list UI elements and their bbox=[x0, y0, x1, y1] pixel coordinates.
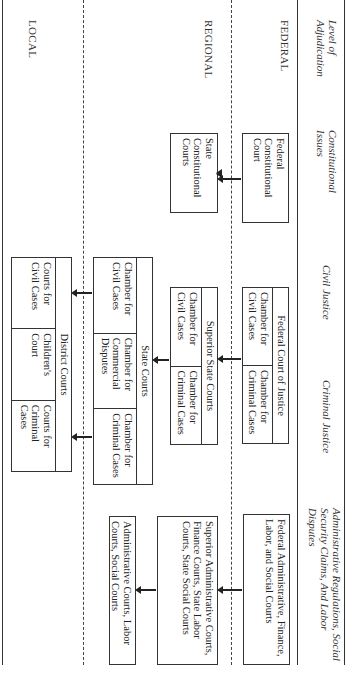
arrow-district-criminal-to-state bbox=[73, 436, 92, 438]
level-local: LOCAL bbox=[27, 20, 39, 58]
sc-civil-chamber: Chamber for Civil Cases bbox=[94, 258, 136, 334]
federal-constitutional-court: Federal Constitutional Court bbox=[242, 133, 289, 223]
dc-criminal-courts: Courts for Criminal Cases bbox=[12, 401, 55, 471]
header-criminal: Criminal Justice bbox=[321, 380, 333, 470]
dc-civil-courts: Courts for Civil Cases bbox=[12, 258, 55, 329]
header-civil: Civil Justice bbox=[321, 265, 333, 345]
sc-criminal-chamber: Chamber for Criminal Cases bbox=[94, 409, 136, 484]
federal-court-of-justice-title: Federal Court of Justice bbox=[272, 288, 288, 443]
regional-local-divider bbox=[83, 0, 84, 665]
arrow-state-courts-to-superior bbox=[154, 359, 169, 361]
header-separator bbox=[297, 0, 298, 665]
fcj-civil-chamber: Chamber for Civil Cases bbox=[243, 288, 272, 366]
header-level: Level of Adjudication bbox=[315, 20, 339, 90]
header-administrative: Administrative Regulations, Social Secur… bbox=[307, 508, 343, 668]
ssc-criminal-chamber: Chamber for Criminal Cases bbox=[171, 367, 201, 445]
federal-regional-divider bbox=[231, 0, 232, 665]
state-courts-title: State Courts bbox=[136, 258, 152, 484]
superior-administrative-courts: Superior Administrative Courts, Finance … bbox=[157, 516, 218, 665]
court-system-diagram: Level of Adjudication Constitutional Iss… bbox=[0, 0, 361, 675]
arrow-state-constitutional-up bbox=[219, 178, 241, 180]
district-courts-title: District Courts bbox=[55, 258, 71, 471]
arrow-superior-state-to-fcj bbox=[219, 358, 241, 360]
district-courts: District Courts Courts for Civil Cases C… bbox=[11, 257, 72, 472]
ssc-civil-chamber: Chamber for Civil Cases bbox=[171, 288, 201, 367]
federal-court-of-justice: Federal Court of Justice Chamber for Civ… bbox=[242, 287, 289, 444]
superior-state-courts-title: Superior State Courts bbox=[201, 288, 217, 444]
sc-commercial-chamber: Chamber for Commercial Disputes bbox=[94, 334, 136, 410]
federal-administrative-courts: Federal Administrative, Finance, Labor, … bbox=[243, 514, 290, 665]
bottom-border bbox=[2, 0, 3, 665]
fcj-criminal-chamber: Chamber for Criminal Cases bbox=[243, 366, 272, 443]
dc-childrens-court: Children's Court bbox=[12, 329, 55, 400]
header-constitutional: Constitutional Issues bbox=[315, 130, 339, 210]
arrow-local-admin-to-superior bbox=[137, 589, 156, 591]
local-administrative-courts: Administrative Courts, Labor Courts, Soc… bbox=[109, 516, 136, 665]
top-border bbox=[344, 0, 345, 665]
level-federal: FEDERAL bbox=[279, 20, 291, 72]
state-courts: State Courts Chamber for Civil Cases Cha… bbox=[93, 257, 153, 485]
arrow-superior-admin-to-federal bbox=[219, 589, 242, 591]
level-regional: REGIONAL bbox=[203, 20, 215, 79]
arrow-district-civil-to-state bbox=[73, 292, 92, 294]
superior-state-courts: Superior State Courts Chamber for Civil … bbox=[170, 287, 218, 445]
state-constitutional-courts: State Constitutional Courts bbox=[170, 133, 218, 213]
